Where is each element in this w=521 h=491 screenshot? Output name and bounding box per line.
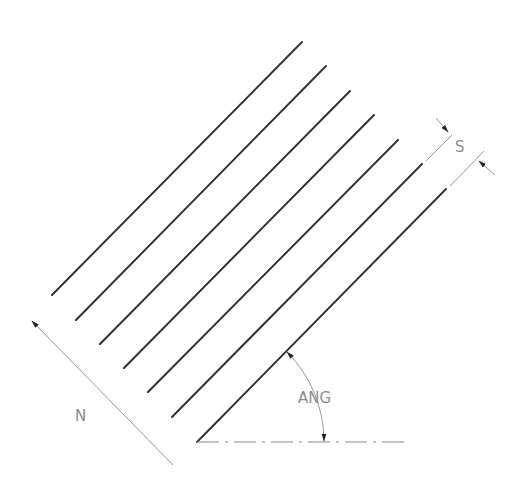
hatch-line-2 (76, 66, 326, 320)
hatch-diagram: S ANG N (0, 0, 521, 491)
extension-line-2 (450, 151, 484, 186)
hatch-line-3 (100, 91, 350, 344)
angle-label: ANG (298, 389, 331, 407)
hatch-line-5 (148, 140, 398, 392)
hatch-line-1 (52, 42, 302, 295)
hatch-line-4 (124, 115, 374, 368)
dimension-arrow-lower (479, 161, 495, 175)
spacing-dimension: S (426, 118, 495, 186)
extension-line-1 (426, 135, 452, 161)
angle-dimension: ANG (197, 352, 410, 442)
dimension-arrow-upper (436, 118, 448, 132)
count-label: N (75, 407, 86, 425)
hatch-line-6 (172, 164, 422, 417)
spacing-label: S (455, 138, 465, 156)
hatch-lines (52, 42, 446, 442)
